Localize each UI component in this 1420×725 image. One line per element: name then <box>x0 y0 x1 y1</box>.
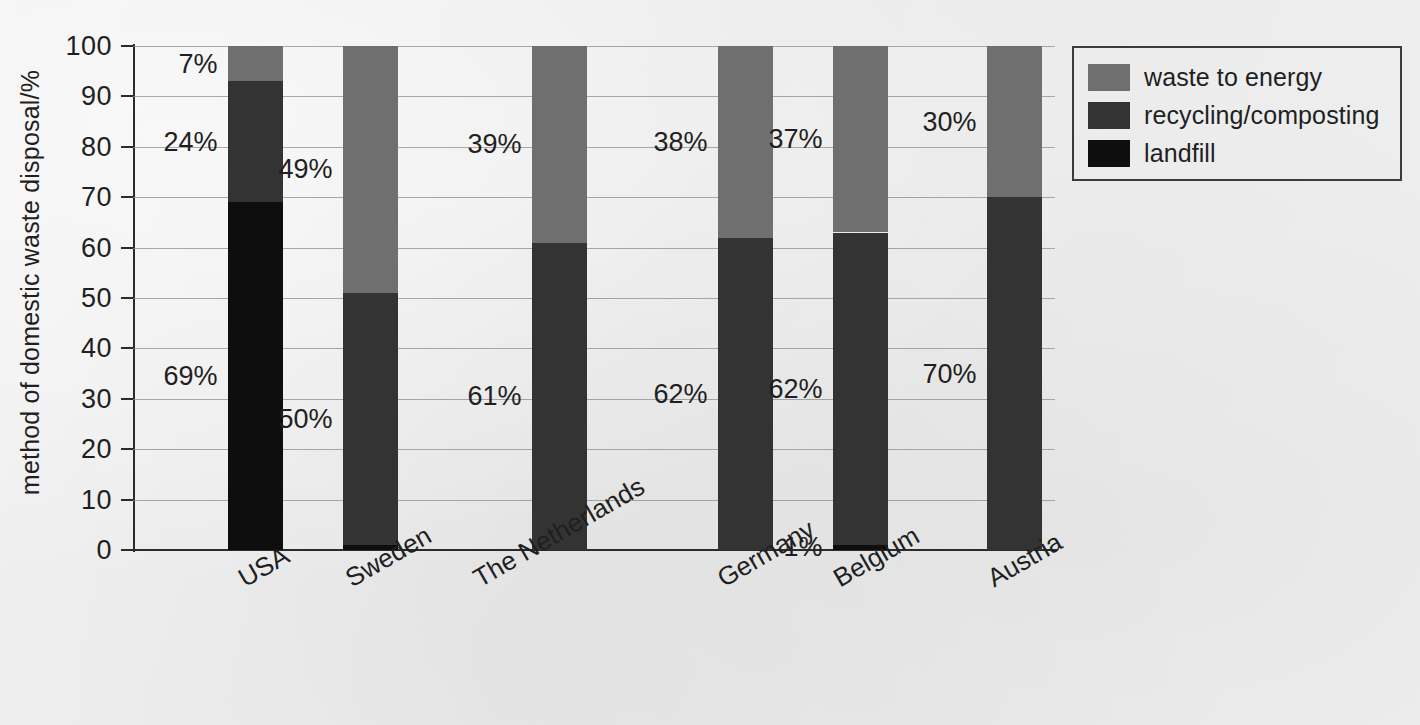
y-axis-tick <box>121 448 133 450</box>
bar-belgium[interactable] <box>833 46 888 550</box>
y-axis-tick <box>121 247 133 249</box>
bar-value-label: 30% <box>922 106 976 137</box>
y-axis-tick-label: 70 <box>81 182 112 213</box>
bar-value-label: 50% <box>278 403 332 434</box>
legend-label: waste to energy <box>1144 63 1322 92</box>
y-axis-tick-label: 10 <box>81 484 112 515</box>
y-axis-tick <box>121 45 133 47</box>
legend-item[interactable]: landfill <box>1088 134 1400 172</box>
y-axis-tick <box>121 398 133 400</box>
legend-item[interactable]: waste to energy <box>1088 58 1400 96</box>
bar-segment-waste-to-energy[interactable] <box>343 46 398 293</box>
legend-swatch-icon <box>1088 140 1130 167</box>
bar-value-label: 37% <box>768 124 822 155</box>
y-axis-tick <box>121 146 133 148</box>
bar-usa[interactable] <box>228 46 283 550</box>
y-axis-tick-label: 50 <box>81 283 112 314</box>
legend-swatch-icon <box>1088 64 1130 91</box>
bar-value-label: 61% <box>467 381 521 412</box>
y-axis-tick <box>121 499 133 501</box>
y-axis-tick-label: 100 <box>65 31 112 62</box>
bar-value-label: 7% <box>178 48 217 79</box>
bar-segment-waste-to-energy[interactable] <box>833 46 888 232</box>
bar-austria[interactable] <box>987 46 1042 550</box>
bar-value-label: 39% <box>467 129 521 160</box>
y-axis-tick <box>121 347 133 349</box>
y-axis-tick <box>121 549 133 551</box>
bar-segment-recycling-composting[interactable] <box>833 233 888 545</box>
y-axis-tick-label: 80 <box>81 131 112 162</box>
bar-segment-recycling-composting[interactable] <box>343 293 398 545</box>
bar-germany[interactable] <box>718 46 773 550</box>
bar-value-label: 69% <box>163 361 217 392</box>
y-axis-tick-label: 40 <box>81 333 112 364</box>
bar-segment-waste-to-energy[interactable] <box>718 46 773 238</box>
y-axis-tick-label: 60 <box>81 232 112 263</box>
bar-segment-waste-to-energy[interactable] <box>228 46 283 81</box>
bar-segment-recycling-composting[interactable] <box>228 81 283 202</box>
plot-area: 69%24%7%50%49%61%39%62%38%1%62%37%70%30% <box>133 46 1055 550</box>
stacked-bar-chart: method of domestic waste disposal/% 0102… <box>0 0 1420 725</box>
bar-segment-recycling-composting[interactable] <box>987 197 1042 550</box>
bar-value-label: 62% <box>768 373 822 404</box>
y-axis-tick <box>121 297 133 299</box>
y-axis-tick-label: 20 <box>81 434 112 465</box>
y-axis-tick-label: 30 <box>81 383 112 414</box>
bar-value-label: 24% <box>163 126 217 157</box>
legend: waste to energyrecycling/compostinglandf… <box>1072 46 1402 181</box>
legend-item[interactable]: recycling/composting <box>1088 96 1400 134</box>
bar-segment-landfill[interactable] <box>228 202 283 550</box>
bar-segment-waste-to-energy[interactable] <box>532 46 587 243</box>
bar-value-label: 70% <box>922 358 976 389</box>
legend-label: recycling/composting <box>1144 101 1379 130</box>
bar-segment-recycling-composting[interactable] <box>718 238 773 550</box>
y-axis-tick-labels: 0102030405060708090100 <box>0 46 120 550</box>
legend-swatch-icon <box>1088 102 1130 129</box>
bar-value-label: 38% <box>653 126 707 157</box>
bar-value-label: 62% <box>653 378 707 409</box>
bar-value-label: 49% <box>278 154 332 185</box>
y-axis-tick <box>121 95 133 97</box>
y-axis-tick <box>121 196 133 198</box>
y-axis-tick-label: 0 <box>96 535 112 566</box>
bar-segment-waste-to-energy[interactable] <box>987 46 1042 197</box>
bar-sweden[interactable] <box>343 46 398 550</box>
legend-label: landfill <box>1144 139 1216 168</box>
bar-the-netherlands[interactable] <box>532 46 587 550</box>
y-axis-tick-label: 90 <box>81 81 112 112</box>
